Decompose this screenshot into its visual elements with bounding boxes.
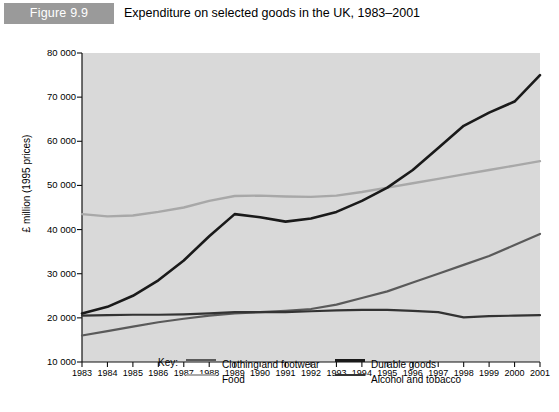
legend-swatch-food [186,374,216,376]
series-line-food [82,161,540,216]
chart-legend: Key: Clothing and footwear Food Durable … [0,355,559,395]
legend-label-durable-goods: Durable goods [371,359,436,370]
legend-label-food: Food [222,374,245,385]
figure-number-label: Figure 9.9 [4,3,114,24]
figure-root: Figure 9.9 Expenditure on selected goods… [0,0,559,412]
legend-swatch-alcohol-and-tobacco [335,374,365,376]
figure-number-banner: Figure 9.9 [4,3,114,24]
figure-title: Expenditure on selected goods in the UK,… [124,3,420,24]
figure-header: Figure 9.9 Expenditure on selected goods… [0,0,559,28]
legend-swatch-clothing-and-footwear [186,359,216,361]
legend-label-alcohol-and-tobacco: Alcohol and tobacco [371,374,461,385]
legend-label-clothing-and-footwear: Clothing and footwear [222,359,319,370]
series-line-durable-goods [82,75,540,313]
series-line-alcohol-and-tobacco [82,310,540,318]
legend-swatch-durable-goods [335,359,365,362]
legend-key-label: Key: [158,357,178,368]
